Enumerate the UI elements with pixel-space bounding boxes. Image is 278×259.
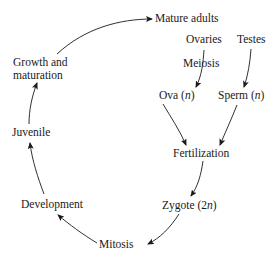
- label-meiosis: Meiosis: [183, 57, 219, 70]
- arrow-development-to-juvenile: [30, 143, 44, 194]
- node-zygote-text: Zygote (2: [162, 199, 207, 211]
- label-meiosis-text: Meiosis: [183, 57, 219, 69]
- node-growth-maturation: Growth and maturation: [13, 56, 68, 82]
- arrow-juvenile-to-growth: [29, 83, 37, 124]
- node-ova: Ova (n): [159, 89, 194, 102]
- node-zygote-close: ): [213, 199, 217, 211]
- node-zygote: Zygote (2n): [162, 199, 217, 212]
- node-juvenile: Juvenile: [12, 126, 50, 139]
- arrow-testes-to-sperm: [244, 49, 251, 87]
- node-testes: Testes: [237, 33, 266, 46]
- node-sperm-text: Sperm (: [218, 89, 255, 101]
- node-fertilization: Fertilization: [173, 147, 229, 160]
- arrow-growth-to-adults: [57, 19, 152, 54]
- node-sperm: Sperm (n): [218, 89, 264, 102]
- arrow-ova-to-fertilization: [163, 104, 186, 145]
- life-cycle-diagram: Mature adults Ovaries Testes Meiosis Ova…: [0, 0, 278, 259]
- node-growth-line1: Growth and: [13, 56, 68, 69]
- node-mitosis: Mitosis: [99, 238, 134, 251]
- arrow-mitosis-to-development: [58, 215, 97, 243]
- node-ovaries-text: Ovaries: [186, 33, 222, 45]
- node-development-text: Development: [21, 198, 83, 210]
- node-juvenile-text: Juvenile: [12, 126, 50, 138]
- arrow-fertilization-to-zygote: [191, 161, 203, 196]
- node-ova-close: ): [191, 89, 195, 101]
- node-sperm-close: ): [260, 89, 264, 101]
- node-growth-line2: maturation: [13, 69, 68, 82]
- arrow-zygote-to-mitosis: [148, 214, 179, 244]
- node-ova-text: Ova (: [159, 89, 185, 101]
- node-mature-adults: Mature adults: [155, 12, 219, 25]
- node-fertilization-text: Fertilization: [173, 147, 229, 159]
- node-ovaries: Ovaries: [186, 33, 222, 46]
- node-testes-text: Testes: [237, 33, 266, 45]
- node-mature-adults-text: Mature adults: [155, 12, 219, 24]
- node-mitosis-text: Mitosis: [99, 238, 134, 250]
- arrow-sperm-to-fertilization: [220, 105, 237, 145]
- node-development: Development: [21, 198, 83, 211]
